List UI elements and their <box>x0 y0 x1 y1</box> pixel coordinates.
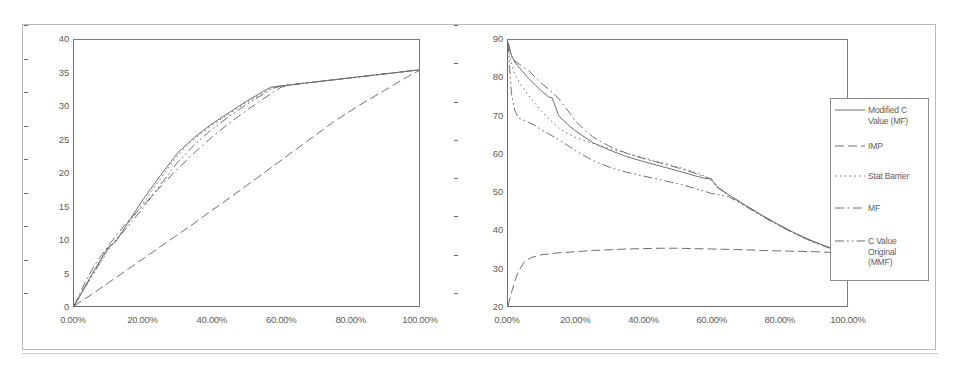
x-axis-tick-label: 80.00% <box>765 315 795 325</box>
legend-item-label: MF <box>865 203 880 214</box>
left-chart-plot-area <box>73 39 420 307</box>
y-axis-tick-mark <box>24 260 28 261</box>
legend-line-swatch-icon <box>835 238 865 248</box>
legend-line-swatch-icon <box>835 107 865 117</box>
legend-item-label: C Value Original (MMF) <box>865 236 897 268</box>
y-axis-tick-mark <box>24 293 28 294</box>
right-chart-x-axis-labels: 0.00%20.00%40.00%60.00%80.00%100.00% <box>507 313 848 327</box>
series-line <box>508 42 847 253</box>
y-axis-tick-label: 70 <box>493 111 503 121</box>
right-chart-plot-area <box>507 39 848 307</box>
left-chart-y-axis-labels: 0510152025303540 <box>47 39 69 307</box>
y-axis-tick-label: 60 <box>493 149 503 159</box>
legend-line-swatch-icon <box>835 205 865 215</box>
x-axis-tick-label: 100.00% <box>402 315 437 325</box>
y-axis-tick-mark <box>24 126 28 127</box>
right-chart-lines <box>508 40 847 306</box>
legend-line-swatch-icon <box>835 143 865 153</box>
y-axis-tick-mark <box>454 25 458 26</box>
right-chart-y-axis-ticks <box>453 25 459 293</box>
y-axis-tick-label: 10 <box>59 235 69 245</box>
chart-legend: Modified C Value (MF)IMPStat BarrierMFC … <box>830 98 929 281</box>
y-axis-tick-mark <box>454 140 458 141</box>
y-axis-tick-label: 5 <box>64 269 69 279</box>
y-axis-tick-mark <box>24 159 28 160</box>
left-chart-y-axis-ticks <box>23 25 29 293</box>
y-axis-tick-mark <box>24 92 28 93</box>
figure-frame: 0510152025303540 0.00%20.00%40.00%60.00%… <box>22 24 936 350</box>
legend-item-modified_c_value_mf[interactable]: Modified C Value (MF) <box>835 105 927 126</box>
legend-item-stat_barrier[interactable]: Stat Barrier <box>835 171 927 183</box>
series-line <box>508 248 847 306</box>
x-axis-tick-label: 0.00% <box>60 315 85 325</box>
y-axis-tick-label: 40 <box>493 226 503 236</box>
left-chart: 0510152025303540 0.00%20.00%40.00%60.00%… <box>23 25 453 351</box>
y-axis-tick-mark <box>454 293 458 294</box>
x-axis-tick-label: 60.00% <box>696 315 726 325</box>
y-axis-tick-label: 30 <box>59 101 69 111</box>
x-axis-tick-label: 100.00% <box>830 315 865 325</box>
y-axis-tick-label: 20 <box>59 168 69 178</box>
y-axis-tick-label: 20 <box>493 302 503 312</box>
y-axis-tick-mark <box>454 178 458 179</box>
legend-item-label: Stat Barrier <box>865 171 909 182</box>
series-line <box>74 70 419 306</box>
y-axis-tick-label: 30 <box>493 264 503 274</box>
y-axis-tick-label: 25 <box>59 135 69 145</box>
y-axis-tick-label: 15 <box>59 202 69 212</box>
x-axis-tick-label: 20.00% <box>560 315 590 325</box>
y-axis-tick-mark <box>454 216 458 217</box>
left-chart-x-axis-labels: 0.00%20.00%40.00%60.00%80.00%100.00% <box>73 313 420 327</box>
y-axis-tick-mark <box>454 63 458 64</box>
x-axis-tick-label: 40.00% <box>628 315 658 325</box>
y-axis-tick-label: 40 <box>59 34 69 44</box>
x-axis-tick-label: 20.00% <box>127 315 157 325</box>
y-axis-tick-mark <box>24 59 28 60</box>
legend-item-label: Modified C Value (MF) <box>865 105 908 126</box>
legend-item-label: IMP <box>865 141 883 152</box>
y-axis-tick-mark <box>24 226 28 227</box>
y-axis-tick-label: 35 <box>59 68 69 78</box>
x-axis-tick-label: 40.00% <box>197 315 227 325</box>
series-line <box>508 44 847 253</box>
right-chart-y-axis-labels: 2030405060708090 <box>481 39 503 307</box>
series-line <box>74 71 419 306</box>
legend-item-imp[interactable]: IMP <box>835 141 927 153</box>
y-axis-tick-mark <box>454 255 458 256</box>
legend-line-swatch-icon <box>835 173 865 183</box>
y-axis-tick-label: 50 <box>493 187 503 197</box>
legend-item-mf[interactable]: MF <box>835 203 927 215</box>
y-axis-tick-label: 0 <box>64 302 69 312</box>
left-chart-lines <box>74 40 419 306</box>
series-line <box>74 70 419 306</box>
y-axis-tick-mark <box>24 193 28 194</box>
x-axis-tick-label: 60.00% <box>266 315 296 325</box>
series-line <box>74 70 419 306</box>
y-axis-tick-label: 80 <box>493 73 503 83</box>
y-axis-tick-mark <box>454 102 458 103</box>
series-line <box>508 44 847 253</box>
series-line <box>74 70 419 306</box>
y-axis-tick-label: 90 <box>493 34 503 44</box>
legend-item-c_value_original_mmf[interactable]: C Value Original (MMF) <box>835 236 927 268</box>
x-axis-tick-label: 0.00% <box>494 315 519 325</box>
y-axis-tick-mark <box>24 25 28 26</box>
x-axis-tick-label: 80.00% <box>335 315 365 325</box>
series-line <box>508 44 847 253</box>
